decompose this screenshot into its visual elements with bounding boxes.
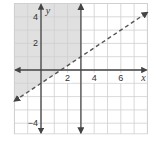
y-tick-label: −4 — [28, 118, 38, 128]
x-axis-label: x — [140, 72, 146, 83]
y-tick-label: 2 — [33, 38, 38, 48]
shaded-region — [14, 4, 81, 102]
x-tick-label: 6 — [118, 73, 123, 83]
inequality-graph: 24642−4xy — [0, 0, 156, 146]
x-tick-label: 4 — [92, 73, 97, 83]
y-axis-label: y — [45, 5, 51, 16]
y-tick-label: 4 — [33, 12, 38, 22]
shaded-area — [14, 4, 81, 102]
x-tick-label: 2 — [65, 73, 70, 83]
